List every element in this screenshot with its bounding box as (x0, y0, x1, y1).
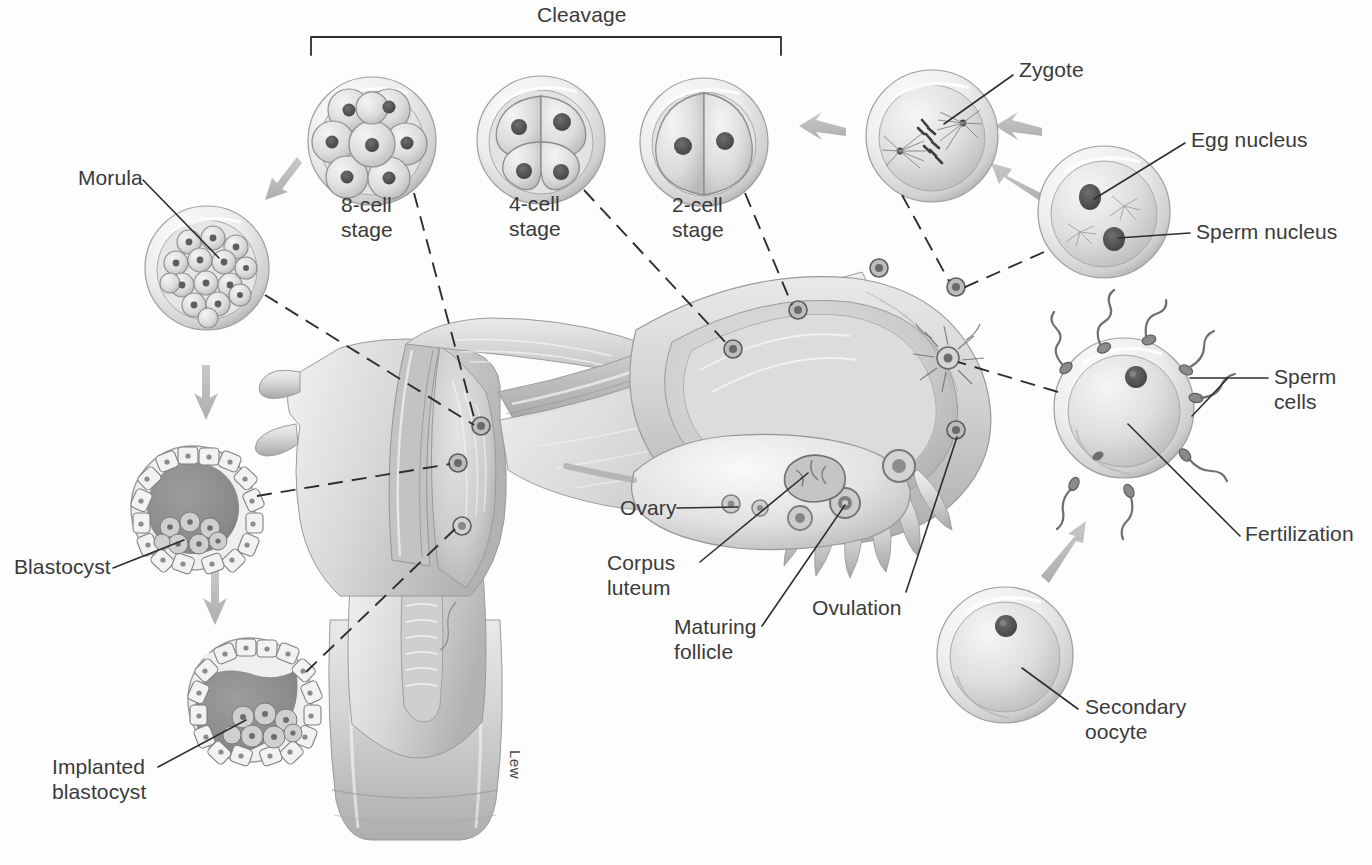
bracket-label-cleavage: Cleavage (537, 2, 627, 27)
label-eight-cell-stage: 8-cell stage (341, 192, 393, 242)
leader-cleavage-bracket (311, 37, 781, 55)
dash-pronuclei (963, 252, 1044, 288)
artist-signature: Lew (507, 750, 524, 779)
stage-implanted-blastocyst (187, 638, 324, 767)
stage-morula (145, 206, 269, 330)
label-blastocyst: Blastocyst (14, 554, 111, 579)
sperm-cell (1178, 331, 1214, 377)
corpus-luteum (784, 455, 845, 502)
dash-zygote (902, 195, 949, 281)
arrow-blastocyst-to-implanted (203, 570, 227, 625)
label-sperm-cells: Sperm cells (1274, 364, 1336, 414)
sperm-nucleus (1103, 227, 1125, 251)
stage-fertilization (1054, 338, 1194, 478)
label-secondary-oocyte: Secondary oocyte (1085, 694, 1186, 744)
label-four-cell-stage: 4-cell stage (509, 191, 561, 241)
arrow-eight-cell-to-morula (265, 157, 302, 200)
label-ovary: Ovary (620, 495, 677, 520)
arrow-oocyte-to-fertilization (1041, 521, 1086, 583)
stage-blastocyst (130, 446, 266, 575)
round-ligament-left (259, 370, 300, 398)
label-implanted-blastocyst: Implanted blastocyst (52, 754, 146, 804)
stage-eight-cell (308, 77, 436, 205)
leader-ovary (677, 507, 738, 508)
label-fertilization: Fertilization (1245, 521, 1354, 546)
arrow-fertilization-to-pronuclei (991, 163, 1047, 203)
ovary (632, 434, 911, 549)
sperm-cell (1177, 447, 1227, 481)
arrow-morula-to-blastocyst (194, 365, 218, 420)
label-zygote: Zygote (1019, 57, 1084, 82)
stage-four-cell (477, 76, 605, 204)
sperm-cell (1122, 483, 1137, 539)
label-sperm-nucleus: Sperm nucleus (1196, 219, 1337, 244)
label-egg-nucleus: Egg nucleus (1191, 127, 1308, 152)
figure-canvas: Cleavage 8-cell stage 4-cell stage 2-cel… (0, 0, 1372, 865)
sperm-cell (1051, 312, 1074, 376)
label-corpus-luteum: Corpus luteum (607, 550, 675, 600)
arrow-zygote-to-two-cell (799, 112, 846, 140)
stage-two-cell (640, 78, 768, 206)
stage-secondary-oocyte (937, 587, 1073, 723)
label-morula: Morula (78, 165, 143, 190)
label-ovulation: Ovulation (812, 595, 902, 620)
label-two-cell-stage: 2-cell stage (672, 192, 724, 242)
sperm-cell (1057, 476, 1081, 529)
stage-pronuclei-ovum (1038, 146, 1170, 278)
sperm-cell (1141, 300, 1166, 346)
label-maturing-follicle: Maturing follicle (674, 614, 757, 664)
arrow-pronuclei-to-zygote (995, 112, 1042, 140)
stage-zygote (866, 70, 998, 202)
round-ligament-left-2 (255, 424, 298, 456)
